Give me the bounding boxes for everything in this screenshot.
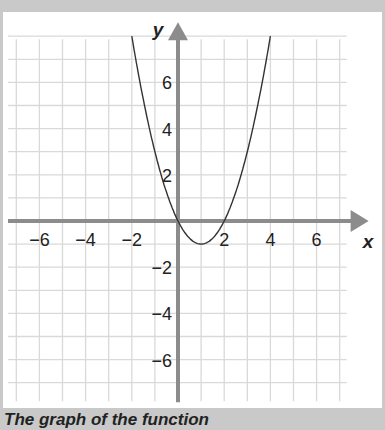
y-axis-label: y xyxy=(152,19,165,40)
y-tick-label: 6 xyxy=(162,73,172,93)
y-tick-label: 2 xyxy=(162,166,172,186)
x-tick-label: 6 xyxy=(312,230,322,250)
x-axis-label: x xyxy=(362,231,375,252)
figure-caption: The graph of the function xyxy=(4,410,209,430)
x-tick-label: 2 xyxy=(219,230,229,250)
x-tick-label: 4 xyxy=(265,230,275,250)
x-tick-label: −6 xyxy=(29,230,50,250)
y-tick-label: −2 xyxy=(151,258,172,278)
y-tick-label: 4 xyxy=(162,120,172,140)
tick-labels: −6−4−2246642−2−4−6xy xyxy=(29,19,375,371)
y-tick-label: −4 xyxy=(151,304,172,324)
x-tick-label: −4 xyxy=(75,230,96,250)
y-tick-label: −6 xyxy=(151,351,172,371)
x-tick-label: −2 xyxy=(122,230,143,250)
